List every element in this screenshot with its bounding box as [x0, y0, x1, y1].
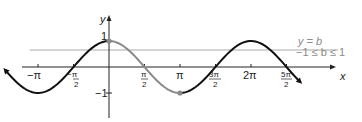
y-axis-arrow-icon	[107, 15, 112, 21]
point-max-0	[106, 38, 111, 43]
y-tick-neg1: −1	[95, 87, 108, 99]
x-tick-neg-pi-over-2-den: 2	[74, 80, 79, 89]
cosine-graph: y x 1 −1 −π −π 2 π 2 π 3π 2 2π 5π 2 y = …	[0, 0, 362, 122]
x-axis-label: x	[339, 70, 346, 82]
x-tick-5pi-over-2-den: 2	[284, 80, 289, 89]
x-tick-neg-pi: −π	[27, 69, 41, 81]
x-tick-pi-over-2-num: π	[141, 70, 147, 79]
x-tick-5pi-over-2-num: 5π	[281, 70, 291, 79]
x-tick-2pi: 2π	[243, 69, 257, 81]
x-tick-3pi-over-2-num: 3π	[209, 70, 219, 79]
x-tick-neg-pi-over-2-num: −π	[67, 70, 78, 79]
y-tick-1: 1	[101, 30, 107, 42]
x-tick-pi: π	[176, 69, 184, 81]
x-tick-3pi-over-2-den: 2	[213, 80, 218, 89]
y-axis-label: y	[99, 13, 107, 25]
x-tick-pi-over-2-den: 2	[142, 80, 147, 89]
annotation-b-range: −1 ≤ b ≤ 1	[296, 46, 345, 58]
point-min-pi	[177, 90, 182, 95]
x-axis-arrow-icon	[330, 65, 336, 70]
